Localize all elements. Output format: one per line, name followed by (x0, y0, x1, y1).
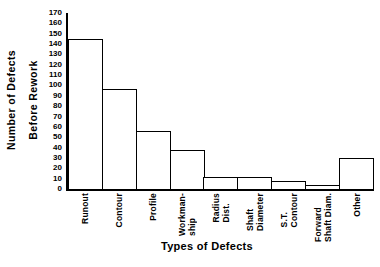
bar (102, 89, 137, 189)
x-category-label-line: Profile (148, 193, 158, 221)
x-category-label-line: Radius (211, 193, 221, 223)
y-tick-label: 10 (40, 175, 62, 183)
y-tick-label: 130 (40, 50, 62, 58)
x-category-label-line: Workman- (177, 193, 187, 236)
bar (136, 131, 171, 189)
x-category-label-line: Shaft (245, 193, 255, 231)
x-category-label-line: Contour (289, 193, 299, 227)
x-category-label-line: Runout (80, 193, 90, 224)
y-tick-label: 30 (40, 154, 62, 162)
y-tick-label: 90 (40, 92, 62, 100)
y-tick-label: 60 (40, 123, 62, 131)
y-tick-label: 160 (40, 19, 62, 27)
y-tick-label: 50 (40, 133, 62, 141)
bar (305, 185, 340, 189)
y-tick-label: 110 (40, 71, 62, 79)
y-tick-label: 120 (40, 61, 62, 69)
defects-bar-chart: Number of Defects Before Rework 01020304… (0, 0, 380, 267)
y-tick-label: 0 (40, 185, 62, 193)
x-category-label-line: Dist. (221, 193, 231, 223)
bar (237, 177, 272, 189)
x-axis-line (66, 189, 374, 191)
bars-container (68, 13, 374, 189)
y-tick-label: 80 (40, 102, 62, 110)
y-axis-title-line-1: Number of Defects (5, 50, 17, 150)
bar (68, 39, 103, 189)
x-category-label-line: Forward (313, 193, 323, 242)
y-tick-label: 40 (40, 144, 62, 152)
y-axis-title: Number of Defects Before Rework (0, 0, 44, 200)
y-tick-label: 20 (40, 164, 62, 172)
plot-area (66, 13, 374, 191)
x-category-label-line: Contour (114, 193, 124, 227)
y-axis-tick-labels: 0102030405060708090100110120130140150160… (40, 13, 62, 191)
x-axis-title: Types of Defects (0, 240, 380, 252)
x-category-label-line: ship (187, 193, 197, 236)
x-category-label-line: Diameter (255, 193, 265, 231)
x-category-label-line: S.T. (279, 193, 289, 227)
y-axis-title-line-2: Before Rework (27, 60, 39, 139)
y-tick-label: 100 (40, 81, 62, 89)
bar (170, 150, 205, 189)
x-category-label-line: Other (352, 193, 362, 217)
y-tick-label: 170 (40, 9, 62, 17)
bar (271, 181, 306, 189)
y-tick-label: 140 (40, 40, 62, 48)
y-tick-label: 70 (40, 113, 62, 121)
bar (203, 177, 238, 189)
x-category-label-line: Shaft Diam. (323, 193, 333, 242)
bar (339, 158, 374, 189)
y-tick-label: 150 (40, 30, 62, 38)
